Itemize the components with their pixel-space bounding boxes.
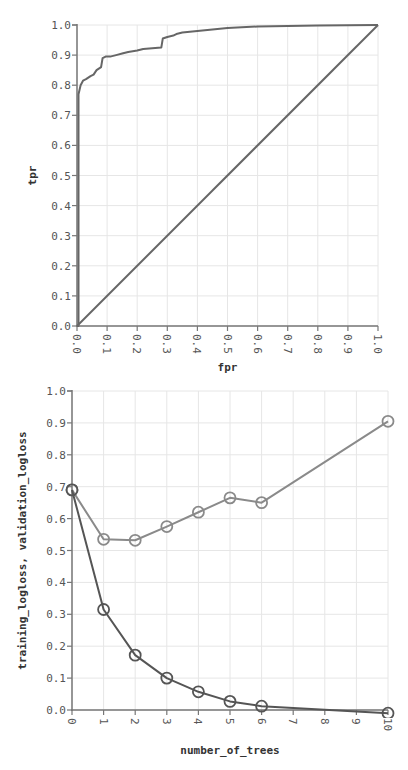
y-tick-label: 1.0 [46,385,66,398]
x-tick-label: 0.7 [281,334,294,354]
x-tick-label: 0.6 [251,334,264,354]
x-tick-label: 0.0 [70,334,83,354]
y-tick-label: 0.9 [46,417,66,430]
x-tick-label: 1.0 [371,334,384,354]
y-tick-label: 0.3 [51,230,71,243]
x-tick-label: 0.1 [100,334,113,354]
y-tick-label: 0.5 [51,170,71,183]
y-tick-label: 1.0 [51,19,71,32]
y-tick-label: 0.6 [46,513,66,526]
roc-chart: 0.00.10.20.30.40.50.60.70.80.91.00.00.10… [0,0,408,380]
x-tick-label: 3 [160,718,173,725]
x-tick-label: 0.9 [341,334,354,354]
x-tick-label: 0.8 [311,334,324,354]
x-tick-label: 0 [65,718,78,725]
y-tick-label: 0.6 [51,139,71,152]
y-tick-label: 0.1 [46,672,66,685]
y-tick-label: 0.4 [51,200,71,213]
y-tick-label: 0.0 [46,704,66,717]
x-axis-label: number_of_trees [180,744,279,757]
x-tick-label: 7 [286,718,299,725]
x-axis-label: fpr [218,361,238,374]
y-tick-label: 0.3 [46,608,66,621]
x-tick-label: 2 [128,718,141,725]
x-tick-label: 4 [191,718,204,725]
y-tick-label: 0.0 [51,320,71,333]
x-tick-label: 0.3 [160,334,173,354]
y-tick-label: 0.7 [46,481,66,494]
y-axis-label: tpr [26,165,39,185]
grid [72,391,388,710]
y-tick-label: 0.1 [51,290,71,303]
logloss-chart: 0.00.10.20.30.40.50.60.70.80.91.00123456… [0,380,408,770]
y-tick-label: 0.9 [51,49,71,62]
x-tick-label: 0.2 [130,334,143,354]
x-tick-label: 8 [318,718,331,725]
x-tick-label: 0.5 [221,334,234,354]
y-tick-label: 0.8 [46,449,66,462]
x-tick-label: 10 [381,718,394,731]
y-tick-label: 0.2 [51,260,71,273]
x-tick-label: 6 [255,718,268,725]
y-tick-label: 0.5 [46,545,66,558]
y-tick-label: 0.2 [46,640,66,653]
x-tick-label: 5 [223,718,236,725]
y-tick-label: 0.7 [51,109,71,122]
y-tick-label: 0.4 [46,576,66,589]
y-tick-label: 0.8 [51,79,71,92]
y-axis-label: training_logloss, validation_logloss [16,431,29,669]
x-tick-label: 0.4 [190,334,203,354]
x-tick-label: 1 [97,718,110,725]
x-tick-label: 9 [349,718,362,725]
